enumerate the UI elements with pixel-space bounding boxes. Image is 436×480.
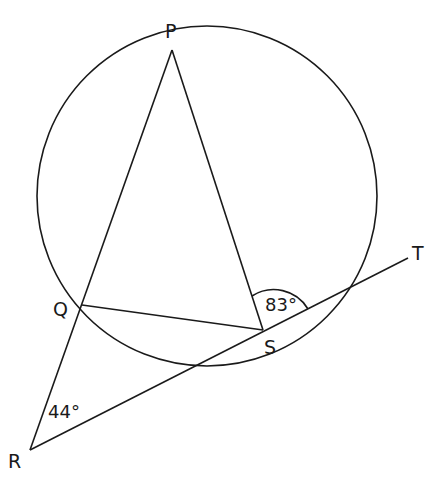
tangent-RT xyxy=(30,258,408,450)
angle-R-value: 44° xyxy=(48,403,80,421)
label-S: S xyxy=(264,338,276,357)
label-Q: Q xyxy=(53,300,68,319)
line-QS xyxy=(82,305,263,330)
label-R: R xyxy=(8,452,21,471)
label-P: P xyxy=(165,22,176,41)
line-PS xyxy=(172,50,263,330)
line-PQ-R xyxy=(30,50,172,450)
label-T: T xyxy=(412,244,424,263)
angle-S-value: 83° xyxy=(265,296,297,314)
circle xyxy=(37,26,377,366)
